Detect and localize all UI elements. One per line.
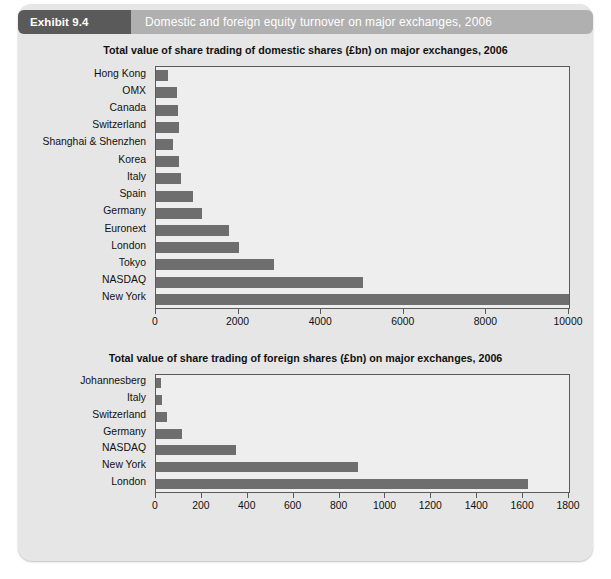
- x-axis-tick-label: 2000: [226, 316, 249, 327]
- bar: [156, 225, 229, 236]
- y-axis-tick-label: New York: [14, 291, 146, 302]
- x-axis-tick: [201, 493, 202, 498]
- bar: [156, 479, 528, 489]
- bar: [156, 156, 179, 167]
- x-axis-tick-label: 600: [284, 500, 301, 511]
- x-axis-tick-label: 0: [152, 316, 158, 327]
- y-axis-tick-label: Korea: [14, 154, 146, 165]
- x-axis-tick-label: 10000: [554, 316, 583, 327]
- bar: [156, 412, 167, 422]
- bar: [156, 395, 162, 405]
- y-axis-tick-label: NASDAQ: [14, 442, 146, 453]
- y-axis-tick-label: Shanghai & Shenzhen: [14, 136, 146, 147]
- y-axis-tick-label: Germany: [14, 205, 146, 216]
- bar: [156, 445, 236, 455]
- y-axis-labels-domestic: Hong KongOMXCanadaSwitzerlandShanghai & …: [18, 66, 150, 309]
- bar: [156, 378, 161, 388]
- bar: [156, 429, 182, 439]
- exhibit-title: Domestic and foreign equity turnover on …: [131, 10, 593, 34]
- x-axis-domestic: 0200040006000800010000: [155, 309, 570, 335]
- x-axis-tick-label: 1800: [556, 500, 579, 511]
- x-axis-tick-label: 1000: [373, 500, 396, 511]
- x-axis-tick: [320, 309, 321, 314]
- y-axis-tick-label: Spain: [14, 188, 146, 199]
- x-axis-tick: [247, 493, 248, 498]
- bar: [156, 242, 239, 253]
- bar: [156, 122, 179, 133]
- x-axis-tick: [476, 493, 477, 498]
- x-axis-tick: [155, 309, 156, 314]
- x-axis-foreign: 020040060080010001200140016001800: [155, 493, 570, 519]
- x-axis-tick: [522, 493, 523, 498]
- x-axis-tick-label: 800: [330, 500, 347, 511]
- y-axis-tick-label: Italy: [14, 392, 146, 403]
- y-axis-tick-label: Germany: [14, 426, 146, 437]
- plot-area-domestic: [155, 66, 570, 309]
- bar: [156, 87, 177, 98]
- bar: [156, 139, 173, 150]
- x-axis-tick: [293, 493, 294, 498]
- x-axis-tick: [238, 309, 239, 314]
- bar: [156, 208, 202, 219]
- x-axis-tick-label: 400: [238, 500, 255, 511]
- x-axis-tick-label: 200: [192, 500, 209, 511]
- x-axis-tick: [339, 493, 340, 498]
- y-axis-tick-label: Canada: [14, 102, 146, 113]
- y-axis-tick-label: Switzerland: [14, 409, 146, 420]
- bar: [156, 105, 178, 116]
- exhibit-header: Exhibit 9.4 Domestic and foreign equity …: [18, 10, 593, 34]
- x-axis-tick: [485, 309, 486, 314]
- chart-title-domestic: Total value of share trading of domestic…: [18, 44, 593, 56]
- chart-foreign-shares: Total value of share trading of foreign …: [18, 352, 593, 547]
- bar: [156, 462, 358, 472]
- bar: [156, 173, 181, 184]
- bar: [156, 294, 569, 305]
- y-axis-tick-label: Italy: [14, 171, 146, 182]
- x-axis-tick: [568, 493, 569, 498]
- exhibit-panel: Exhibit 9.4 Domestic and foreign equity …: [18, 4, 593, 561]
- y-axis-tick-label: New York: [14, 459, 146, 470]
- y-axis-tick-label: Euronext: [14, 223, 146, 234]
- bars-domestic: [156, 67, 569, 308]
- y-axis-tick-label: OMX: [14, 85, 146, 96]
- x-axis-tick: [403, 309, 404, 314]
- x-axis-tick: [568, 309, 569, 314]
- bar: [156, 70, 168, 81]
- bar: [156, 191, 193, 202]
- chart-title-foreign: Total value of share trading of foreign …: [18, 352, 593, 364]
- x-axis-tick-label: 0: [152, 500, 158, 511]
- x-axis-tick-label: 6000: [391, 316, 414, 327]
- y-axis-tick-label: NASDAQ: [14, 274, 146, 285]
- y-axis-tick-label: London: [14, 240, 146, 251]
- plot-area-foreign: [155, 374, 570, 493]
- x-axis-tick-label: 4000: [309, 316, 332, 327]
- y-axis-tick-label: London: [14, 476, 146, 487]
- x-axis-tick-label: 8000: [474, 316, 497, 327]
- x-axis-tick-label: 1400: [465, 500, 488, 511]
- x-axis-tick: [384, 493, 385, 498]
- y-axis-tick-label: Switzerland: [14, 119, 146, 130]
- y-axis-labels-foreign: JohannesbergItalySwitzerlandGermanyNASDA…: [18, 374, 150, 493]
- x-axis-tick: [155, 493, 156, 498]
- x-axis-tick-label: 1200: [419, 500, 442, 511]
- y-axis-tick-label: Hong Kong: [14, 68, 146, 79]
- x-axis-tick: [430, 493, 431, 498]
- bars-foreign: [156, 375, 569, 492]
- bar: [156, 259, 274, 270]
- x-axis-tick-label: 1600: [511, 500, 534, 511]
- bar: [156, 277, 363, 288]
- exhibit-badge: Exhibit 9.4: [18, 10, 131, 34]
- y-axis-tick-label: Tokyo: [14, 257, 146, 268]
- y-axis-tick-label: Johannesberg: [14, 375, 146, 386]
- chart-domestic-shares: Total value of share trading of domestic…: [18, 44, 593, 346]
